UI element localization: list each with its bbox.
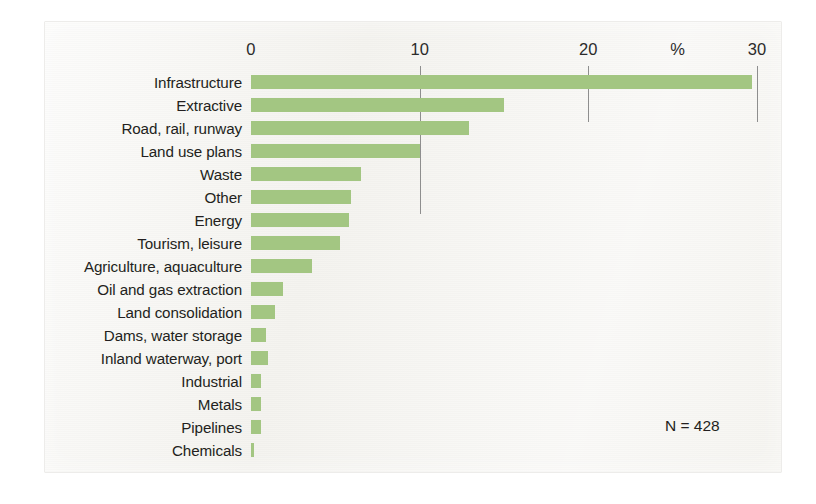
bar bbox=[251, 328, 266, 342]
bar bbox=[251, 374, 261, 388]
bar-row: Inland waterway, port bbox=[251, 350, 757, 373]
category-label: Oil and gas extraction bbox=[97, 281, 242, 298]
bar bbox=[251, 121, 469, 135]
bar-row: Other bbox=[251, 189, 757, 212]
bar bbox=[251, 282, 283, 296]
category-label: Extractive bbox=[176, 97, 242, 114]
bar-row: Waste bbox=[251, 166, 757, 189]
bar bbox=[251, 190, 351, 204]
bar-rows: InfrastructureExtractiveRoad, rail, runw… bbox=[251, 74, 757, 465]
bar bbox=[251, 305, 275, 319]
bar-row: Chemicals bbox=[251, 442, 757, 465]
bar-row: Energy bbox=[251, 212, 757, 235]
category-label: Dams, water storage bbox=[104, 327, 242, 344]
category-label: Land use plans bbox=[140, 143, 242, 160]
category-label: Agriculture, aquaculture bbox=[84, 258, 242, 275]
category-label: Industrial bbox=[181, 373, 242, 390]
bar bbox=[251, 98, 504, 112]
category-label: Road, rail, runway bbox=[121, 120, 242, 137]
x-axis-unit-label: % bbox=[670, 40, 685, 59]
bar-row: Agriculture, aquaculture bbox=[251, 258, 757, 281]
bar bbox=[251, 236, 340, 250]
bar bbox=[251, 75, 752, 89]
bar-row: Land consolidation bbox=[251, 304, 757, 327]
x-axis-tick-labels: 0102030% bbox=[251, 40, 757, 64]
bar-row: Oil and gas extraction bbox=[251, 281, 757, 304]
x-tick-label-10: 10 bbox=[410, 40, 429, 59]
category-label: Metals bbox=[198, 396, 242, 413]
category-label: Inland waterway, port bbox=[101, 350, 242, 367]
bar bbox=[251, 420, 261, 434]
bar-row: Tourism, leisure bbox=[251, 235, 757, 258]
category-label: Energy bbox=[194, 212, 242, 229]
bar-row: Industrial bbox=[251, 373, 757, 396]
figure-root: 0102030% InfrastructureExtractiveRoad, r… bbox=[0, 0, 816, 504]
category-label: Pipelines bbox=[181, 419, 242, 436]
bar bbox=[251, 213, 349, 227]
bar-row: Land use plans bbox=[251, 143, 757, 166]
bar bbox=[251, 144, 420, 158]
category-label: Land consolidation bbox=[117, 304, 242, 321]
bar bbox=[251, 443, 254, 457]
category-label: Tourism, leisure bbox=[137, 235, 242, 252]
bar-row: Infrastructure bbox=[251, 74, 757, 97]
bar-row: Extractive bbox=[251, 97, 757, 120]
x-tick-label-30: 30 bbox=[748, 40, 767, 59]
x-tick-label-0: 0 bbox=[246, 40, 255, 59]
bar bbox=[251, 351, 268, 365]
bar bbox=[251, 397, 261, 411]
bar-row: Dams, water storage bbox=[251, 327, 757, 350]
bar bbox=[251, 259, 312, 273]
bar-row: Road, rail, runway bbox=[251, 120, 757, 143]
bar-row: Metals bbox=[251, 396, 757, 419]
category-label: Waste bbox=[200, 166, 242, 183]
plot-area: 0102030% InfrastructureExtractiveRoad, r… bbox=[251, 74, 757, 464]
category-label: Chemicals bbox=[172, 442, 242, 459]
sample-size-note: N = 428 bbox=[665, 417, 720, 435]
category-label: Infrastructure bbox=[154, 74, 242, 91]
x-tick-label-20: 20 bbox=[579, 40, 598, 59]
gridline-30 bbox=[757, 66, 758, 122]
bar bbox=[251, 167, 361, 181]
category-label: Other bbox=[205, 189, 242, 206]
